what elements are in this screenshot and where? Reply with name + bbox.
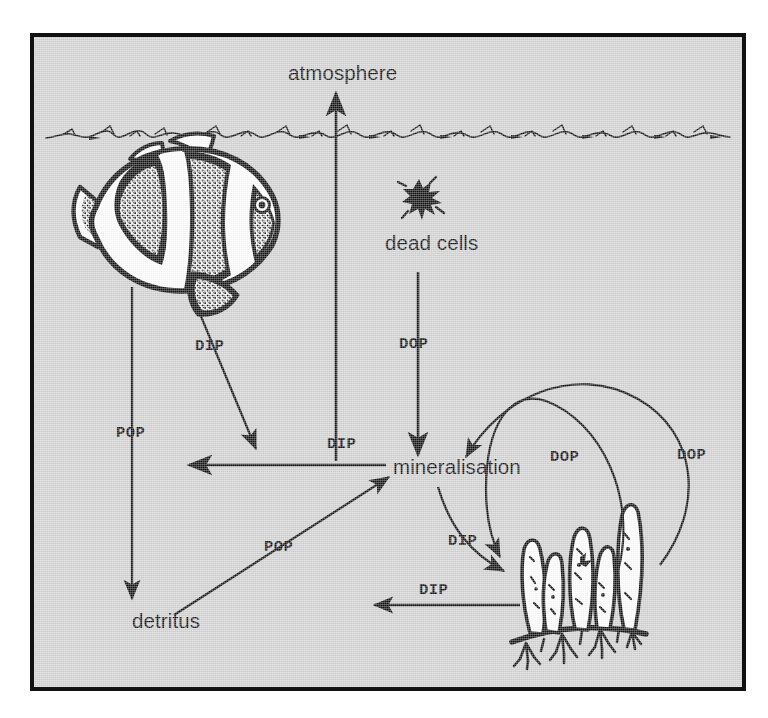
node-label-dead-cells: dead cells [385, 233, 478, 254]
flux-label-dop-outer: DOP [677, 448, 706, 464]
node-label-detritus: detritus [132, 611, 200, 632]
flux-label-dip-fish: DIP [195, 339, 224, 355]
arrow-dip-plant [438, 487, 504, 571]
algae-illustration [512, 505, 646, 669]
flux-label-dop-inner: DOP [550, 450, 579, 466]
clownfish-illustration [74, 134, 278, 316]
flux-label-dip-plant: DIP [448, 534, 477, 550]
figure-page: atmosphere dead cells mineralisation det… [0, 0, 768, 718]
dead-cell-blob-icon [398, 177, 444, 220]
arrow-dop-inner [486, 399, 623, 571]
flux-label-pop-detritus: POP [264, 540, 293, 556]
flux-label-dip-horizontal: DIP [419, 583, 448, 599]
flux-label-pop-fish: POP [116, 426, 145, 442]
diagram-canvas [34, 37, 742, 687]
flux-label-dop-dead-cells: DOP [399, 337, 428, 353]
node-label-mineralisation: mineralisation [393, 457, 521, 478]
flux-label-dip-atmosphere: DIP [327, 437, 356, 453]
diagram-frame: atmosphere dead cells mineralisation det… [30, 33, 746, 691]
node-label-atmosphere: atmosphere [288, 63, 397, 84]
water-surface-line [46, 125, 730, 140]
